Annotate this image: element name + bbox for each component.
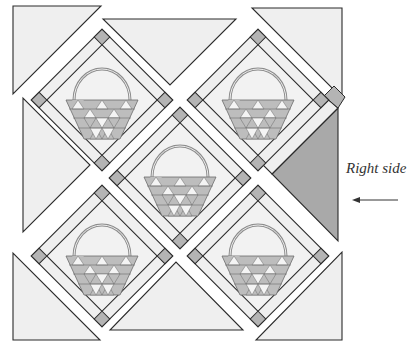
right-side-label: Right side (346, 160, 406, 177)
left-arrow-icon (352, 196, 398, 204)
